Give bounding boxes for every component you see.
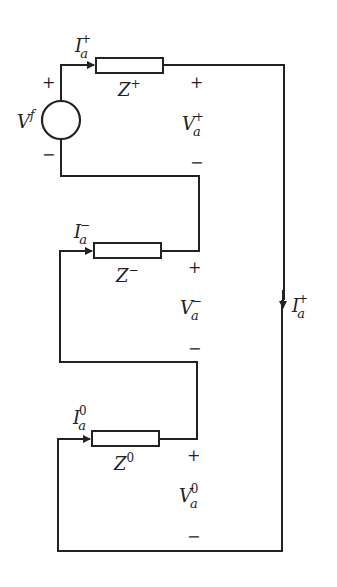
current-label-ia-plus: Ia+ [74,32,91,61]
impedance-z-plus [96,58,163,73]
wire [159,362,197,439]
va-plus-plus-sign: + [190,73,203,92]
va-plus-minus-sign: − [190,153,203,172]
return-path: Ia+ [283,290,308,321]
zero-sequence-branch: Ia0 Z0 + Va0 − [58,300,282,551]
source-label-vf: Vf [17,108,37,132]
current-label-ia-minus: Ia− [73,218,90,247]
va-minus-plus-sign: + [188,258,201,277]
va-zero-plus-sign: + [187,446,200,465]
voltage-source-icon [42,101,80,139]
impedance-label-z-minus: Z− [115,263,139,286]
current-label-return-ia-plus: Ia+ [291,292,308,321]
voltage-label-va-zero: Va0 [179,482,198,511]
source-minus-sign: − [42,145,55,164]
va-minus-minus-sign: − [188,339,201,358]
circuit-diagram: Ia+ Z+ + − Vf + Va+ − Ia− Z− + Va− − [0,0,337,587]
source-plus-sign: + [42,73,55,92]
current-label-ia-zero: Ia0 [72,404,87,433]
va-zero-minus-sign: − [187,527,200,546]
positive-sequence-branch: Ia+ Z+ + − Vf + Va+ − [17,32,284,300]
negative-sequence-branch: Ia− Z− + Va− − [60,218,202,362]
wire [58,300,282,551]
impedance-z-zero [92,431,159,446]
wire [163,65,284,300]
wire [61,65,90,101]
impedance-z-minus [94,243,161,258]
voltage-label-va-plus: Va+ [182,110,204,139]
voltage-label-va-minus: Va− [180,294,202,323]
impedance-label-z-plus: Z+ [117,77,141,100]
impedance-label-z-zero: Z0 [113,451,134,474]
